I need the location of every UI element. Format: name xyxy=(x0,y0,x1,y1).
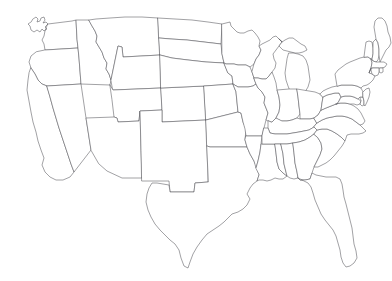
state-michigan-upper[interactable] xyxy=(279,38,307,53)
state-arizona[interactable] xyxy=(86,111,142,178)
state-rhode-island[interactable] xyxy=(379,68,383,73)
state-minnesota[interactable] xyxy=(222,22,261,67)
state-colorado[interactable] xyxy=(161,86,206,122)
us-states-outline-map xyxy=(0,0,392,281)
state-florida[interactable] xyxy=(298,173,357,267)
state-new-jersey[interactable] xyxy=(363,88,370,106)
state-washington[interactable] xyxy=(28,17,78,50)
state-new-mexico[interactable] xyxy=(140,110,208,192)
us-map-container xyxy=(0,0,392,281)
state-vermont[interactable] xyxy=(364,41,373,59)
